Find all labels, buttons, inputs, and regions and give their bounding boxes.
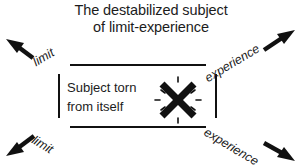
diagram-canvas: The destabilized subject of limit-experi…	[0, 0, 302, 168]
box-line-bottom	[70, 126, 206, 128]
center-caption-line-1: Subject torn	[67, 80, 136, 95]
title-line-2: of limit-experience	[0, 19, 302, 36]
center-caption-line-2: from itself	[67, 97, 162, 116]
center-caption: Subject torn from itself	[67, 78, 162, 116]
arrow-up-left-icon	[6, 39, 33, 58]
box-line-left	[58, 74, 60, 118]
label-experience-top-right: experience	[202, 42, 262, 85]
label-limit-top-left: limit	[30, 46, 56, 69]
x-burst-icon	[154, 76, 202, 124]
title-line-1: The destabilized subject	[74, 2, 227, 18]
page-title: The destabilized subject of limit-experi…	[0, 2, 302, 35]
arrow-down-left-icon	[6, 136, 34, 156]
arrow-down-right-icon	[264, 143, 295, 161]
label-limit-bottom-left: limit	[29, 133, 55, 156]
box-line-top	[70, 64, 206, 66]
label-experience-bottom-right: experience	[201, 125, 261, 168]
